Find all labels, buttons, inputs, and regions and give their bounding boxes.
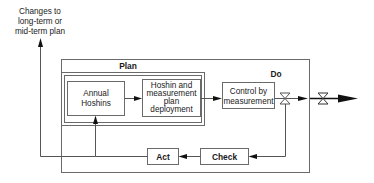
deployment-line4: deployment [150, 105, 193, 114]
arrow-output [310, 95, 358, 103]
top-note-line3: mid-term plan [15, 27, 65, 36]
annual-hoshins-line2: Hoshins [81, 99, 111, 108]
act-label: Act [156, 152, 170, 162]
control-line1: Control by [230, 87, 268, 96]
control-line2: measurement [223, 97, 274, 106]
top-note-line2: long-term or [18, 17, 62, 26]
plan-group-label: Plan [119, 61, 137, 71]
top-note-line1: Changes to [19, 7, 61, 16]
top-note: Changes to long-term or mid-term plan [15, 7, 65, 36]
check-label: Check [212, 152, 237, 162]
annual-hoshins-line1: Annual [83, 89, 109, 98]
pdca-hoshin-diagram: Changes to long-term or mid-term plan Do… [0, 0, 374, 183]
do-group-label: Do [270, 69, 281, 79]
